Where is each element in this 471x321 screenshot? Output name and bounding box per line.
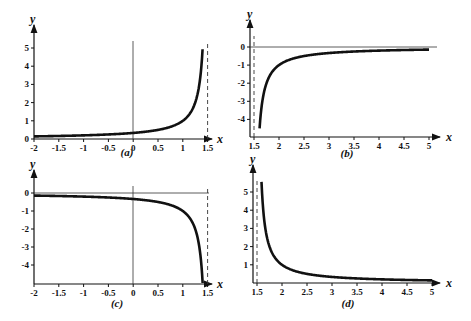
- function-curve: [34, 196, 203, 283]
- y-axis-label: y: [28, 157, 36, 171]
- chart-figure: xy-2-1.5-1-0.500.511.5012345(a)xy1.522.5…: [0, 0, 471, 321]
- x-tick-label: 2: [280, 287, 285, 297]
- y-tick-label: -1: [22, 206, 30, 216]
- x-tick-label: 4: [377, 141, 382, 151]
- x-tick-label: -2: [30, 288, 38, 298]
- x-tick-label: 2: [277, 141, 282, 151]
- x-tick-label: 2.5: [298, 141, 310, 151]
- y-tick-label: 3: [244, 223, 249, 233]
- x-tick-label: 4: [380, 287, 385, 297]
- y-tick-label: -4: [238, 114, 246, 124]
- x-tick-label: 0.5: [152, 288, 164, 298]
- y-tick-label: 4: [244, 205, 249, 215]
- x-tick-label: 1: [181, 288, 186, 298]
- y-tick-label: 2: [25, 98, 30, 108]
- x-axis-label: x: [445, 276, 452, 290]
- y-tick-label: 0: [25, 188, 30, 198]
- chart-panel-d: xy1.522.533.544.5512345(d): [244, 152, 453, 310]
- x-tick-label: 0: [131, 288, 136, 298]
- x-tick-label: 0.5: [152, 143, 164, 153]
- y-tick-label: -2: [238, 78, 246, 88]
- x-tick-label: -1: [80, 288, 88, 298]
- y-axis-label: y: [28, 12, 36, 26]
- x-tick-label: -1.5: [52, 288, 67, 298]
- y-tick-label: 1: [244, 260, 249, 270]
- y-tick-label: 1: [25, 116, 30, 126]
- x-tick-label: 1.5: [251, 287, 263, 297]
- x-tick-label: 4.5: [401, 287, 413, 297]
- y-axis-label: y: [248, 152, 256, 166]
- function-curve: [262, 182, 433, 281]
- y-tick-label: 0: [241, 42, 246, 52]
- y-tick-label: 5: [25, 43, 30, 53]
- y-tick-label: -4: [22, 260, 30, 270]
- y-tick-label: 3: [25, 79, 30, 89]
- y-tick-label: -1: [238, 60, 246, 70]
- chart-panel-b: xy1.522.533.544.550-1-2-3-4(b): [238, 7, 453, 160]
- panel-caption: (d): [342, 297, 355, 310]
- function-curve: [34, 49, 203, 136]
- x-axis-label: x: [216, 132, 223, 146]
- y-tick-label: 2: [244, 242, 249, 252]
- x-axis-label: x: [216, 277, 223, 291]
- y-tick-label: -3: [238, 96, 246, 106]
- y-tick-label: 0: [25, 134, 30, 144]
- x-tick-label: 3.5: [351, 287, 363, 297]
- x-tick-label: 2.5: [301, 287, 313, 297]
- x-tick-label: 3: [330, 287, 335, 297]
- panel-caption: (b): [341, 147, 354, 160]
- x-axis-label: x: [445, 130, 452, 144]
- x-tick-label: -1: [80, 143, 88, 153]
- y-tick-label: 4: [25, 61, 30, 71]
- function-curve: [260, 50, 429, 129]
- y-tick-label: -2: [22, 224, 30, 234]
- x-tick-label: -1.5: [52, 143, 67, 153]
- y-axis-label: y: [245, 7, 253, 21]
- y-tick-label: 5: [244, 187, 249, 197]
- x-tick-label: 5: [427, 141, 432, 151]
- x-tick-label: 1.5: [248, 141, 260, 151]
- panel-caption: (c): [111, 297, 123, 310]
- x-tick-label: 3: [327, 141, 332, 151]
- x-tick-label: 5: [430, 287, 435, 297]
- panel-caption: (a): [121, 146, 134, 159]
- x-tick-label: -2: [30, 143, 38, 153]
- x-tick-label: 4.5: [398, 141, 410, 151]
- x-tick-label: 1: [181, 143, 186, 153]
- x-tick-label: 1.5: [202, 143, 214, 153]
- x-tick-label: 1.5: [202, 288, 214, 298]
- chart-panel-a: xy-2-1.5-1-0.500.511.5012345(a): [25, 12, 224, 159]
- y-tick-label: -3: [22, 242, 30, 252]
- x-tick-label: -0.5: [101, 143, 116, 153]
- chart-panel-c: xy-2-1.5-1-0.500.511.50-1-2-3-4(c): [22, 157, 224, 310]
